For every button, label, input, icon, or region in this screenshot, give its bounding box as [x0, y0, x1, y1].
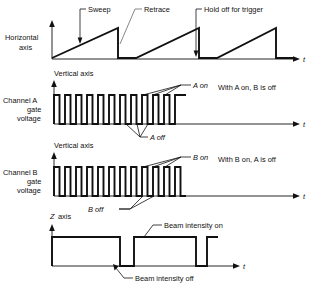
- z-axis-waveform: [52, 237, 218, 266]
- hold-off-leader-bracket: [196, 9, 202, 18]
- b-on-leader-3: [143, 157, 181, 167]
- channel-b-label-line2: gate: [27, 177, 41, 186]
- annotation-beam-on: Beam intensity on: [164, 221, 223, 230]
- t-axis-label-4: t: [243, 262, 246, 271]
- annotation-a-off: A off: [149, 133, 166, 142]
- a-off-leader-1: [126, 124, 148, 137]
- y-axis-arrowhead-4: [49, 224, 55, 231]
- annotation-b-on: B on: [193, 153, 208, 162]
- vertical-axis-label-a: Vertical axis: [54, 69, 94, 78]
- channel-a-label-line1: Channel A: [3, 96, 37, 105]
- panel-channel-a-gate: Vertical axis Channel A gate voltage t A…: [3, 69, 306, 142]
- t-axis-arrowhead-1: [293, 56, 300, 62]
- y-axis-arrowhead-1: [49, 20, 55, 27]
- vertical-axis-label-b: Vertical axis: [54, 141, 94, 150]
- t-axis-arrowhead-3: [293, 193, 300, 199]
- t-axis-arrowhead-2: [293, 121, 300, 127]
- panel-horizontal-axis: Horizontal axis t Sweep Retrace Hold off…: [5, 5, 306, 64]
- annotation-beam-off: Beam intensity off: [135, 274, 195, 283]
- a-off-leader-3: [140, 124, 148, 137]
- y-axis-arrowhead-3: [51, 152, 57, 159]
- channel-a-square-wave: [54, 95, 186, 124]
- beam-off-leader: [116, 268, 133, 278]
- t-axis-label-1: t: [303, 55, 306, 64]
- retrace-leader-line: [120, 9, 142, 44]
- annotation-a-on: A on: [192, 81, 208, 90]
- annotation-sweep: Sweep: [88, 5, 111, 14]
- panel-z-axis: Z axis t Beam intensity on Beam intensit…: [49, 212, 246, 283]
- channel-a-label-line2: gate: [27, 105, 41, 114]
- channel-b-square-wave: [54, 167, 186, 196]
- b-on-leader-1: [165, 157, 191, 167]
- side-note-b: With B on, A is off: [218, 155, 277, 164]
- hold-off-leader-arrowhead: [194, 51, 199, 57]
- y-axis-arrowhead-2: [51, 80, 57, 87]
- channel-b-label-line3: voltage: [17, 186, 41, 195]
- channel-a-label-line3: voltage: [17, 114, 41, 123]
- beam-off-leader-arrowhead: [113, 264, 119, 270]
- sweep-leader-arrowhead: [78, 38, 83, 44]
- horizontal-axis-label-line2: axis: [19, 43, 32, 52]
- z-axis-title: axis: [58, 212, 71, 221]
- sweep-leader-bracket: [80, 9, 86, 16]
- a-on-leader-3: [143, 85, 181, 95]
- t-axis-label-2: t: [303, 120, 306, 129]
- a-on-leader-1: [165, 85, 191, 95]
- z-axis-title-italic: Z: [49, 212, 55, 221]
- timing-diagram: Horizontal axis t Sweep Retrace Hold off…: [0, 0, 312, 286]
- annotation-retrace: Retrace: [144, 5, 170, 14]
- channel-b-label-line1: Channel B: [3, 168, 38, 177]
- t-axis-label-3: t: [303, 192, 306, 201]
- figure-root: Horizontal axis t Sweep Retrace Hold off…: [0, 0, 312, 286]
- t-axis-arrowhead-4: [233, 263, 240, 269]
- b-off-leader-2: [130, 196, 154, 209]
- sawtooth-waveform: [52, 28, 294, 58]
- side-note-a: With A on, B is off: [218, 83, 277, 92]
- annotation-hold-off: Hold off for trigger: [204, 5, 264, 14]
- b-off-leader-1: [119, 196, 143, 209]
- panel-channel-b-gate: Vertical axis Channel B gate voltage t B…: [3, 141, 306, 214]
- annotation-b-off: B off: [88, 205, 104, 214]
- beam-on-leader: [144, 225, 162, 237]
- horizontal-axis-label-line1: Horizontal: [5, 33, 39, 42]
